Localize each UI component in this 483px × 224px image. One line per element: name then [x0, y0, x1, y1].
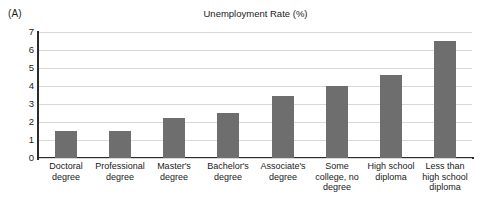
- gridline-1: [39, 140, 472, 141]
- y-tick-label-2: 2: [8, 117, 34, 127]
- bar: [380, 75, 402, 158]
- x-category-label: Less than high school diploma: [418, 161, 472, 193]
- y-tick-label-5: 5: [8, 63, 34, 73]
- x-category-label: Bachelor's degree: [201, 161, 255, 182]
- y-tick-label-1: 1: [8, 135, 34, 145]
- x-category-label: Professional degree: [93, 161, 147, 182]
- bar: [163, 118, 185, 158]
- y-axis-tick-labels: 76543210: [6, 0, 34, 224]
- gridline-3: [39, 104, 472, 105]
- y-tick-label-4: 4: [8, 81, 34, 91]
- x-category-label: Some college, no degree: [310, 161, 364, 193]
- gridline-7: [39, 32, 472, 33]
- x-category-label: Master's degree: [147, 161, 201, 182]
- x-axis-category-labels: Doctoral degreeProfessional degreeMaster…: [39, 161, 472, 223]
- bar: [55, 131, 77, 158]
- x-category-label: Doctoral degree: [39, 161, 93, 182]
- gridline-2: [39, 122, 472, 123]
- figure-panel-a: (A) Unemployment Rate (%) 76543210 Docto…: [0, 0, 483, 224]
- gridline-4: [39, 86, 472, 87]
- gridline-5: [39, 68, 472, 69]
- chart-title: Unemployment Rate (%): [39, 8, 472, 20]
- plot-area: [39, 32, 472, 158]
- bar: [217, 113, 239, 158]
- y-tick-label-6: 6: [8, 45, 34, 55]
- gridline-6: [39, 50, 472, 51]
- y-tick-label-3: 3: [8, 99, 34, 109]
- y-tick-label-0: 0: [8, 153, 34, 163]
- gridline-0: [39, 158, 472, 159]
- y-tick-label-7: 7: [8, 27, 34, 37]
- bar: [434, 41, 456, 158]
- bar: [272, 96, 294, 158]
- x-category-label: Associate's degree: [256, 161, 310, 182]
- bar: [109, 131, 131, 158]
- x-category-label: High school diploma: [364, 161, 418, 182]
- bar: [326, 86, 348, 158]
